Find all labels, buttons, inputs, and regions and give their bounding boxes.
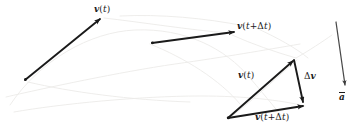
diagram-canvas <box>0 0 354 129</box>
velocity-vector-t-arrow <box>25 19 100 80</box>
average-acceleration-vector-arrow <box>336 22 345 85</box>
label-velocity-v-of-t: v(t) <box>94 5 110 14</box>
physics-vector-diagram: v(t) v(t+Δt) v(t) v(t+Δt) Δv a <box>0 0 354 129</box>
label-vector-symbol: a <box>339 92 345 102</box>
label-delta-symbol: Δ <box>304 71 311 81</box>
velocity-vector-t-plus-dt-tail-dot <box>151 41 154 44</box>
label-vector-symbol: v <box>311 71 316 81</box>
label-delta-v: Δv <box>304 72 316 81</box>
label-triangle-velocity-v-of-t: v(t) <box>238 71 254 80</box>
label-paren-close: ) <box>286 112 290 122</box>
label-triangle-velocity-v-of-t-plus-delta-t: v(t+Δt) <box>255 113 289 122</box>
label-delta-symbol: Δ <box>257 21 264 31</box>
triangle-origin-dot <box>227 116 230 119</box>
triangle-delta-v-arrow <box>294 60 303 102</box>
label-paren-close: ) <box>107 4 111 14</box>
velocity-vector-t-plus-dt-arrow <box>152 32 234 43</box>
label-paren-close: ) <box>251 70 255 80</box>
velocity-vector-t-tail-dot <box>24 78 27 81</box>
label-paren-close: ) <box>268 21 272 31</box>
trajectory-path <box>6 15 332 121</box>
label-velocity-v-of-t-plus-delta-t: v(t+Δt) <box>237 22 271 31</box>
label-delta-symbol: Δ <box>275 112 282 122</box>
label-average-acceleration: a <box>339 92 345 102</box>
